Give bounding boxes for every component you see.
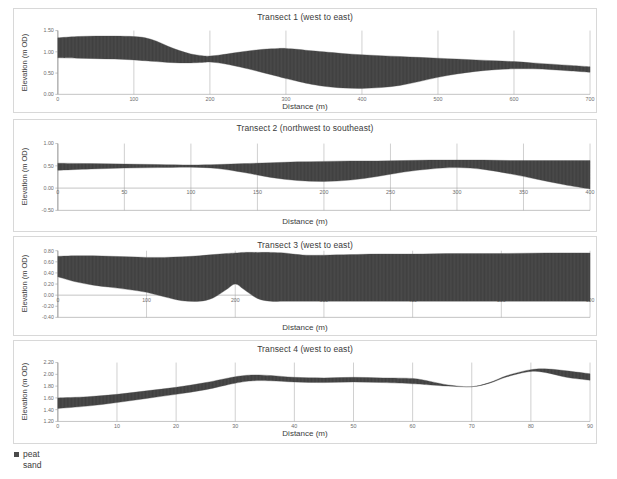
svg-text:100: 100 xyxy=(186,190,195,196)
transect-panel-4: Transect 4 (west to east) 1.201.401.601.… xyxy=(13,340,597,444)
x-axis-title-1: Distance (m) xyxy=(14,102,596,111)
svg-text:1.40: 1.40 xyxy=(43,407,53,413)
svg-text:-0.40: -0.40 xyxy=(42,314,54,320)
y-axis-title-2: Elevation (m OD) xyxy=(20,147,29,207)
svg-text:200: 200 xyxy=(231,297,240,303)
svg-text:1.20: 1.20 xyxy=(43,418,53,424)
svg-text:30: 30 xyxy=(232,423,238,429)
svg-text:1.80: 1.80 xyxy=(43,383,53,389)
svg-text:400: 400 xyxy=(357,96,366,102)
svg-text:50: 50 xyxy=(121,190,127,196)
svg-text:80: 80 xyxy=(528,423,534,429)
legend-item-sand: sand xyxy=(14,460,41,471)
svg-text:0.50: 0.50 xyxy=(43,163,53,169)
svg-text:0.40: 0.40 xyxy=(44,270,54,276)
svg-text:50: 50 xyxy=(351,423,357,429)
svg-text:0.00: 0.00 xyxy=(43,91,53,97)
figure-legend: peat sand xyxy=(14,449,41,471)
svg-text:700: 700 xyxy=(586,96,595,102)
x-axis-title-2: Distance (m) xyxy=(14,217,596,226)
legend-swatch-sand-icon xyxy=(14,463,19,468)
svg-text:350: 350 xyxy=(519,190,528,196)
svg-text:400: 400 xyxy=(586,190,595,196)
svg-text:1.00: 1.00 xyxy=(43,140,53,146)
svg-text:0.50: 0.50 xyxy=(43,70,53,76)
transect-plot-svg-3: -0.40-0.200.000.200.400.600.800100200300… xyxy=(14,237,596,335)
svg-text:2.20: 2.20 xyxy=(43,359,53,365)
transect-panel-2: Transect 2 (northwest to southeast) -0.5… xyxy=(13,119,597,232)
legend-label-sand: sand xyxy=(23,460,41,471)
y-axis-title-4: Elevation (m OD) xyxy=(20,362,29,422)
svg-text:0: 0 xyxy=(56,423,59,429)
svg-text:40: 40 xyxy=(291,423,297,429)
svg-text:1.50: 1.50 xyxy=(43,27,53,33)
legend-label-peat: peat xyxy=(23,449,40,460)
svg-text:0.00: 0.00 xyxy=(43,185,53,191)
svg-text:20: 20 xyxy=(173,423,179,429)
svg-text:0.00: 0.00 xyxy=(44,292,54,298)
plot-area-4: 1.201.401.601.802.002.200102030405060708… xyxy=(14,341,596,443)
svg-text:600: 600 xyxy=(510,96,519,102)
transect-panel-1: Transect 1 (west to east) 0.000.501.001.… xyxy=(13,8,597,113)
transect-plot-svg-1: 0.000.501.001.500100200300400500600700 xyxy=(14,9,596,112)
svg-text:300: 300 xyxy=(453,190,462,196)
svg-text:0.20: 0.20 xyxy=(44,281,54,287)
x-axis-title-4: Distance (m) xyxy=(14,429,596,438)
x-axis-title-3: Distance (m) xyxy=(14,323,596,332)
svg-text:70: 70 xyxy=(469,423,475,429)
svg-text:200: 200 xyxy=(319,190,328,196)
svg-text:150: 150 xyxy=(253,190,262,196)
svg-text:0: 0 xyxy=(56,190,59,196)
svg-text:10: 10 xyxy=(114,423,120,429)
svg-text:-0.20: -0.20 xyxy=(42,303,54,309)
plot-area-3: -0.40-0.200.000.200.400.600.800100200300… xyxy=(14,237,596,335)
legend-swatch-peat-icon xyxy=(14,452,19,457)
svg-text:0.80: 0.80 xyxy=(44,248,54,254)
y-axis-title-3: Elevation (m OD) xyxy=(20,254,29,314)
svg-text:250: 250 xyxy=(386,190,395,196)
legend-item-peat: peat xyxy=(14,449,41,460)
svg-text:100: 100 xyxy=(142,297,151,303)
svg-text:0: 0 xyxy=(56,297,59,303)
transect-plot-svg-4: 1.201.401.601.802.002.200102030405060708… xyxy=(14,341,596,443)
svg-text:0.60: 0.60 xyxy=(44,259,54,265)
transect-plot-svg-2: -0.500.000.501.0005010015020025030035040… xyxy=(14,120,596,231)
transect-panel-3: Transect 3 (west to east) -0.40-0.200.00… xyxy=(13,236,597,336)
svg-text:60: 60 xyxy=(410,423,416,429)
svg-text:100: 100 xyxy=(129,96,138,102)
transect-figure-sheet: Transect 1 (west to east) 0.000.501.001.… xyxy=(0,0,617,479)
svg-text:1.60: 1.60 xyxy=(43,395,53,401)
plot-area-1: 0.000.501.001.500100200300400500600700 xyxy=(14,9,596,112)
svg-text:500: 500 xyxy=(433,96,442,102)
svg-text:1.00: 1.00 xyxy=(43,49,53,55)
svg-text:300: 300 xyxy=(281,96,290,102)
svg-text:90: 90 xyxy=(587,423,593,429)
svg-text:200: 200 xyxy=(205,96,214,102)
svg-text:-0.50: -0.50 xyxy=(42,207,54,213)
plot-area-2: -0.500.000.501.0005010015020025030035040… xyxy=(14,120,596,231)
y-axis-title-1: Elevation (m OD) xyxy=(20,32,29,92)
svg-text:0: 0 xyxy=(56,96,59,102)
svg-text:2.00: 2.00 xyxy=(43,371,53,377)
